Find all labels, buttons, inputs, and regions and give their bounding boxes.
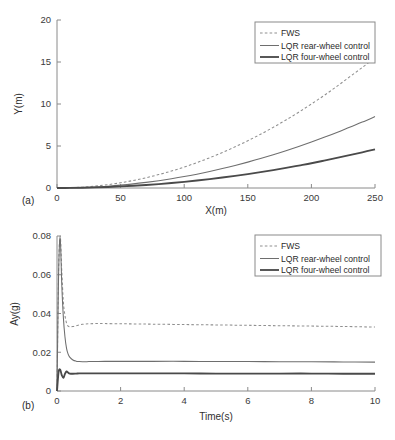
chart-lateral-acceleration: 00.020.040.060.08 0246810 Ay(g) Time(s) … (0, 218, 395, 440)
x-tick-label: 10 (370, 395, 381, 406)
x-tick-label: 250 (367, 192, 383, 203)
legend-label-rear-a: LQR rear-wheel control (281, 41, 370, 51)
y-tick-label: 20 (40, 14, 51, 25)
y-axis-title-b: Ay(g) (9, 302, 20, 326)
panel-tag-b: (b) (22, 400, 34, 411)
x-tick-label: 6 (245, 395, 250, 406)
x-tick-label: 8 (309, 395, 314, 406)
x-tick-label: 100 (176, 192, 192, 203)
y-tick-label: 0.04 (33, 308, 52, 319)
series-line-lqr-rear-wheel-control (57, 117, 375, 188)
y-tick-label: 0.06 (33, 269, 52, 280)
y-tick-label: 10 (40, 98, 51, 109)
x-tick-labels-b: 0246810 (54, 395, 380, 406)
series-line-lqr-four-wheel-control (57, 369, 375, 391)
x-tick-label: 200 (303, 192, 319, 203)
legend-label-four-a: LQR four-wheel control (281, 52, 369, 62)
x-tick-label: 2 (118, 395, 123, 406)
panel-lateral-acceleration: 00.020.040.060.08 0246810 Ay(g) Time(s) … (0, 218, 395, 440)
y-tick-label: 0 (46, 182, 51, 193)
x-tick-label: 50 (115, 192, 126, 203)
legend-label-fws-a: FWS (281, 28, 300, 38)
legend-label-rear-b: LQR rear-wheel control (281, 254, 370, 264)
x-tick-label: 0 (54, 192, 59, 203)
x-tick-label: 150 (240, 192, 256, 203)
series-line-fws (57, 58, 375, 188)
series-group-a (57, 58, 375, 188)
y-tick-labels-b: 00.020.040.060.08 (33, 230, 52, 396)
x-tick-labels-a: 050100150200250 (54, 192, 383, 203)
x-ticks-b (57, 387, 375, 391)
x-tick-label: 0 (54, 395, 59, 406)
x-tick-label: 4 (182, 395, 187, 406)
panel-tag-a: (a) (22, 195, 34, 206)
y-tick-label: 0.02 (33, 347, 52, 358)
figure-root: 05101520 050100150200250 Y(m) X(m) FWS L… (0, 0, 395, 440)
y-axis-title-a: Y(m) (13, 93, 24, 115)
x-axis-title-b: Time(s) (199, 411, 233, 422)
legend-b: FWS LQR rear-wheel control LQR four-whee… (255, 235, 381, 276)
chart-trajectory: 05101520 050100150200250 Y(m) X(m) FWS L… (0, 0, 395, 220)
y-tick-label: 0.08 (33, 230, 52, 241)
y-tick-label: 5 (46, 140, 51, 151)
y-tick-label: 15 (40, 56, 51, 67)
legend-a: FWS LQR rear-wheel control LQR four-whee… (255, 22, 375, 63)
panel-trajectory: 05101520 050100150200250 Y(m) X(m) FWS L… (0, 0, 395, 220)
legend-label-four-b: LQR four-wheel control (281, 265, 369, 275)
y-tick-label: 0 (46, 385, 51, 396)
x-axis-title-a: X(m) (205, 205, 227, 216)
y-ticks-a (57, 20, 61, 188)
y-tick-labels-a: 05101520 (40, 14, 51, 193)
legend-label-fws-b: FWS (281, 241, 300, 251)
